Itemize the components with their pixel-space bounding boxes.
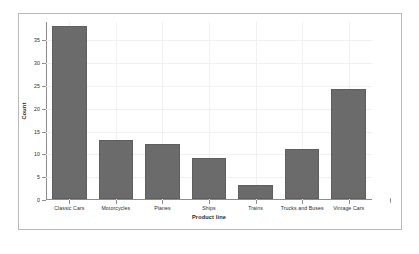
bar <box>99 140 133 199</box>
y-axis-tick-label: 15 <box>34 129 40 135</box>
y-axis-tick-label: 5 <box>37 174 40 180</box>
x-axis-tick-label: Classic Cars <box>54 205 84 211</box>
y-axis-tick-label: 0 <box>37 197 40 203</box>
x-axis-tick-label: Trucks and Buses <box>281 205 324 211</box>
bar <box>192 158 226 199</box>
bar <box>285 149 319 199</box>
y-axis-tick <box>42 109 46 110</box>
x-axis-tick-label: Trains <box>248 205 263 211</box>
y-axis-tick <box>42 154 46 155</box>
y-axis-tick-label: 25 <box>34 83 40 89</box>
y-axis-tick-label: 20 <box>34 106 40 112</box>
x-axis-tick <box>209 200 210 204</box>
bar <box>331 89 365 199</box>
x-axis-tick <box>162 200 163 204</box>
y-axis-tick <box>42 86 46 87</box>
baseline-end-tick <box>390 198 391 203</box>
x-axis-tick-label: Planes <box>154 205 170 211</box>
gridline-vertical <box>256 22 257 200</box>
y-axis-tick <box>42 40 46 41</box>
x-axis-tick-label: Ships <box>202 205 215 211</box>
x-axis-tick <box>302 200 303 204</box>
x-axis-tick-label: Motorcycles <box>101 205 130 211</box>
y-axis-tick-label: 30 <box>34 60 40 66</box>
x-axis-tick <box>116 200 117 204</box>
y-axis-tick <box>42 177 46 178</box>
bar <box>238 185 272 199</box>
x-axis-tick <box>256 200 257 204</box>
x-axis-tick <box>349 200 350 204</box>
y-axis-title: Count <box>21 103 27 120</box>
y-axis-tick <box>42 63 46 64</box>
x-axis-tick <box>69 200 70 204</box>
y-axis-tick-label: 10 <box>34 151 40 157</box>
chart-figure: 05101520253035 Classic CarsMotorcyclesPl… <box>0 0 419 254</box>
plot-area: 05101520253035 Classic CarsMotorcyclesPl… <box>46 22 372 200</box>
bar <box>145 144 179 199</box>
y-axis-spine <box>46 22 47 200</box>
bar <box>52 26 86 199</box>
x-axis-title: Product line <box>46 214 372 220</box>
y-axis-tick <box>42 200 46 201</box>
y-axis-tick-label: 35 <box>34 37 40 43</box>
y-axis-tick <box>42 132 46 133</box>
x-axis-tick-label: Vintage Cars <box>333 205 364 211</box>
